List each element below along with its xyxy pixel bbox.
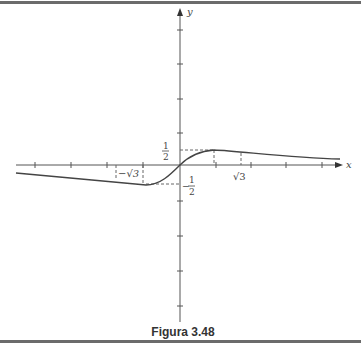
y-axis-arrow-icon [177, 8, 183, 16]
half-denominator: 2 [163, 152, 169, 162]
half-numerator: 1 [163, 141, 169, 151]
neg-half-denominator: 2 [189, 187, 195, 197]
figure-caption: Figura 3.48 [0, 325, 361, 339]
frame-bottom-border [0, 340, 361, 343]
y-axis-label: y [186, 6, 193, 17]
x-axis-arrow-icon [335, 162, 343, 168]
neg-half-numerator: 1 [189, 175, 195, 185]
sqrt3-label: √3 [233, 171, 246, 182]
x-axis-label: x [346, 159, 352, 170]
neg-sqrt3-label: −√3 [118, 168, 139, 179]
function-curve [16, 150, 340, 185]
plot: y x 1 2 − 1 2 −√3 √3 [0, 0, 361, 347]
